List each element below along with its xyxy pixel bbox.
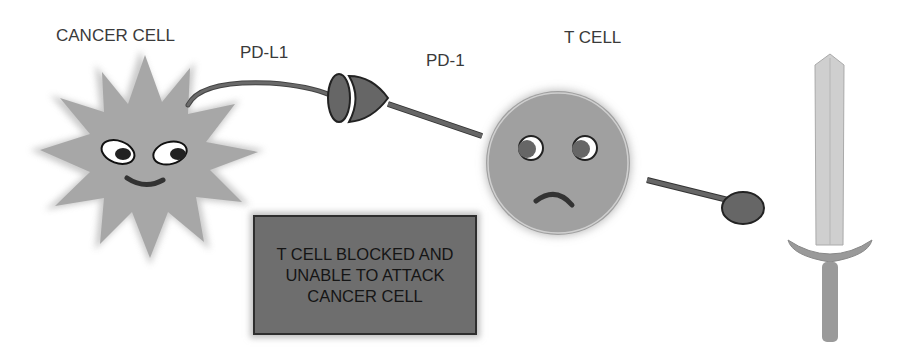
pd-1-label: PD-1 bbox=[426, 51, 465, 71]
pd-l1-arm bbox=[188, 83, 330, 105]
sad-t-cell-icon bbox=[480, 85, 636, 241]
blocked-message-text: T CELL BLOCKED AND UNABLE TO ATTACK CANC… bbox=[265, 244, 465, 307]
pd-l1-label: PD-L1 bbox=[240, 43, 288, 63]
t-cell-label: T CELL bbox=[564, 28, 621, 48]
cancer-cell-label: CANCER CELL bbox=[56, 26, 175, 46]
sword-icon bbox=[788, 54, 872, 342]
blocked-message-box: T CELL BLOCKED AND UNABLE TO ATTACK CANC… bbox=[253, 215, 477, 335]
pd1-pdl1-connector-icon bbox=[328, 74, 482, 136]
blocked-signal-knob-icon bbox=[647, 180, 764, 224]
